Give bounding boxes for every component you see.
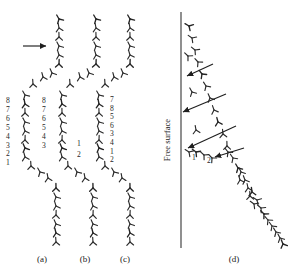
dislocation-symbol	[90, 183, 97, 191]
dislocation-symbol	[20, 89, 30, 99]
dislocation-symbol	[53, 183, 60, 191]
number-label-panel-b-left-4: 4	[42, 132, 46, 141]
dislocation-symbol	[88, 201, 97, 210]
dislocation-symbol	[127, 183, 134, 191]
number-label-panel-a-6: 6	[6, 114, 10, 123]
dislocation-symbol	[101, 79, 108, 87]
number-label-panel-b-left-3: 3	[42, 141, 46, 150]
dislocation-symbol	[91, 13, 101, 23]
dislocation-symbol	[89, 228, 97, 237]
dislocation-symbol	[91, 50, 100, 59]
dislocation-symbol	[57, 89, 67, 99]
dislocation-symbol	[55, 59, 62, 67]
dislocation-symbol	[201, 80, 211, 90]
number-label-panel-d-2: 2	[207, 156, 211, 165]
dislocation-symbol	[125, 191, 135, 201]
dislocation-symbol	[35, 166, 45, 176]
dislocation-symbol	[125, 50, 134, 59]
dislocation-symbol	[125, 201, 134, 210]
dislocation-symbol	[209, 105, 218, 115]
dislocation-symbol	[182, 50, 192, 60]
dislocation-symbol	[88, 191, 98, 201]
dislocation-symbol	[29, 79, 36, 87]
dislocation-symbol	[56, 32, 63, 40]
dislocation-symbol	[187, 86, 197, 96]
dislocation-symbol	[89, 237, 96, 245]
number-labels-layer: 87654321876543127856341212	[6, 95, 211, 167]
dislocation-symbol	[39, 72, 47, 81]
number-label-panel-a-1: 1	[6, 158, 10, 167]
dislocation-symbol	[91, 40, 101, 50]
dislocation-symbol	[72, 166, 82, 176]
dislocation-symbol	[126, 210, 133, 218]
dislocation-symbol	[189, 44, 199, 54]
dislocation-symbol	[258, 208, 268, 218]
dislocation-symbol	[183, 21, 193, 31]
dislocation-symbol	[214, 117, 223, 126]
dislocation-symbol	[22, 108, 29, 116]
dislocation-symbol	[192, 125, 200, 134]
dislocation-symbol	[126, 237, 133, 245]
dislocation-symbol	[127, 32, 134, 40]
number-label-panel-b-left-8: 8	[42, 96, 46, 105]
panel-c-dislocations	[94, 13, 135, 245]
dislocation-symbol	[96, 108, 103, 116]
caption-panel-d: (d)	[229, 254, 240, 264]
dislocation-symbol	[240, 174, 249, 184]
dislocation-symbol	[51, 201, 60, 210]
dislocation-symbol	[27, 161, 34, 169]
dislocation-symbol	[275, 232, 285, 242]
number-label-panel-b-right-1: 1	[77, 139, 81, 148]
dislocation-symbol	[21, 135, 28, 143]
dislocation-symbol	[94, 142, 103, 152]
dislocation-symbol	[94, 89, 104, 99]
dislocation-symbol	[54, 40, 64, 50]
free-surface-label-group: Free surface	[162, 119, 172, 161]
dislocation-symbol	[58, 135, 65, 143]
dislocation-symbol	[95, 99, 103, 108]
panel-captions: (a) (b) (c) (d)	[37, 254, 239, 264]
number-label-panel-a-5: 5	[6, 123, 10, 132]
dislocation-symbol	[118, 67, 127, 77]
dislocation-symbol	[81, 173, 89, 182]
number-label-panel-c-2: 2	[110, 155, 114, 164]
number-label-panel-d-1: 1	[192, 153, 196, 162]
dislocation-symbol	[95, 135, 102, 143]
image-force-arrow-panel-d-3	[188, 126, 236, 148]
dislocation-symbol	[89, 210, 96, 218]
dislocation-symbol	[95, 152, 103, 161]
dislocation-symbol	[58, 99, 66, 108]
dislocation-symbol	[20, 126, 29, 135]
panel-d-dislocations	[182, 21, 287, 249]
dislocation-symbol	[125, 13, 135, 23]
dislocation-symbol	[84, 67, 93, 77]
dislocation-symbol	[101, 161, 108, 169]
caption-panel-c: (c)	[120, 254, 130, 264]
dislocation-symbol	[20, 116, 30, 126]
dislocation-symbol	[126, 228, 134, 237]
number-label-panel-b-left-5: 5	[42, 123, 46, 132]
dislocation-symbol	[192, 56, 202, 66]
image-force-arrow-panel-d-1	[187, 64, 213, 76]
dislocation-symbol	[92, 59, 99, 67]
number-label-panel-a-7: 7	[6, 105, 10, 114]
dislocation-symbol	[57, 142, 66, 152]
dislocation-symbol	[110, 72, 118, 81]
dislocation-symbol	[125, 218, 134, 228]
dislocation-symbol	[52, 228, 60, 237]
dislocation-symbol	[109, 166, 119, 176]
dislocation-symbol	[51, 218, 60, 228]
dislocation-symbol	[54, 13, 64, 23]
number-label-panel-b-left-6: 6	[42, 114, 46, 123]
dislocation-symbol	[118, 173, 126, 182]
dislocation-glyph-layer	[20, 13, 288, 248]
dislocation-symbol	[52, 237, 59, 245]
number-label-panel-a-2: 2	[6, 149, 10, 158]
dislocation-symbol	[223, 141, 230, 149]
number-label-panel-b-right-2: 2	[77, 150, 81, 159]
free-surface-label: Free surface	[162, 119, 172, 161]
caption-panel-a: (a)	[37, 254, 47, 264]
figure-svg: 87654321876543127856341212 Free surface …	[0, 0, 304, 277]
dislocation-symbol	[58, 152, 66, 161]
dislocation-symbol	[92, 23, 100, 32]
